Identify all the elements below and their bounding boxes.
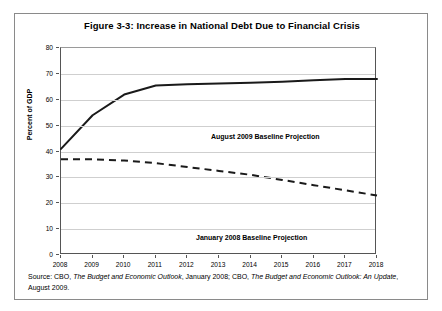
y-axis-labels: 01020304050607080 — [15, 47, 59, 254]
x-tick-mark — [376, 255, 377, 258]
y-tick-label: 10 — [46, 225, 53, 232]
y-tick-mark — [56, 254, 59, 255]
source-publication-2: The Budget and Economic Outlook: An Upda… — [251, 273, 396, 280]
gridline — [61, 229, 375, 230]
y-tick-mark — [56, 202, 59, 203]
x-tick-label: 2014 — [242, 261, 257, 268]
x-tick-label: 2012 — [179, 261, 194, 268]
x-tick-mark — [313, 255, 314, 258]
x-tick-label: 2013 — [211, 261, 226, 268]
y-tick-label: 30 — [46, 173, 53, 180]
plot-area: August 2009 Baseline Projection January … — [60, 47, 376, 254]
x-tick-label: 2017 — [337, 261, 352, 268]
x-tick-mark — [344, 255, 345, 258]
x-tick-mark — [281, 255, 282, 258]
y-tick-label: 20 — [46, 199, 53, 206]
y-tick-mark — [56, 151, 59, 152]
source-prefix: Source: CBO, — [28, 273, 73, 280]
x-tick-mark — [186, 255, 187, 258]
x-tick-label: 2010 — [116, 261, 131, 268]
y-tick-mark — [56, 73, 59, 74]
x-tick-label: 2015 — [274, 261, 289, 268]
gridline — [61, 74, 375, 75]
gridline — [61, 203, 375, 204]
x-tick-label: 2011 — [148, 261, 162, 268]
source-middle: , January 2008; CBO, — [182, 273, 251, 280]
source-note: Source: CBO, The Budget and Economic Out… — [28, 272, 416, 293]
x-tick-mark — [92, 255, 93, 258]
series-label-january-2008: January 2008 Baseline Projection — [194, 234, 309, 241]
y-tick-mark — [56, 176, 59, 177]
gridline — [61, 100, 375, 101]
x-tick-label: 2018 — [369, 261, 384, 268]
y-tick-mark — [56, 125, 59, 126]
x-tick-mark — [155, 255, 156, 258]
x-tick-mark — [218, 255, 219, 258]
x-tick-label: 2008 — [53, 261, 68, 268]
source-publication-1: The Budget and Economic Outlook — [73, 273, 182, 280]
series-label-august-2009: August 2009 Baseline Projection — [209, 133, 322, 140]
figure-title: Figure 3-3: Increase in National Debt Du… — [15, 20, 429, 31]
y-tick-mark — [56, 47, 59, 48]
x-axis-labels: 2008200920102011201220132014201520162017… — [60, 255, 376, 271]
gridline — [61, 177, 375, 178]
x-tick-mark — [250, 255, 251, 258]
y-tick-label: 0 — [49, 251, 53, 258]
x-tick-label: 2016 — [305, 261, 320, 268]
x-tick-mark — [60, 255, 61, 258]
y-tick-mark — [56, 99, 59, 100]
figure-frame: Figure 3-3: Increase in National Debt Du… — [14, 13, 428, 300]
y-tick-label: 70 — [46, 69, 53, 76]
y-tick-label: 60 — [46, 95, 53, 102]
gridline — [61, 152, 375, 153]
y-tick-label: 40 — [46, 147, 53, 154]
y-tick-mark — [56, 228, 59, 229]
y-tick-label: 50 — [46, 121, 53, 128]
y-tick-label: 80 — [46, 44, 53, 51]
gridline — [61, 126, 375, 127]
x-tick-label: 2009 — [84, 261, 99, 268]
x-tick-mark — [123, 255, 124, 258]
